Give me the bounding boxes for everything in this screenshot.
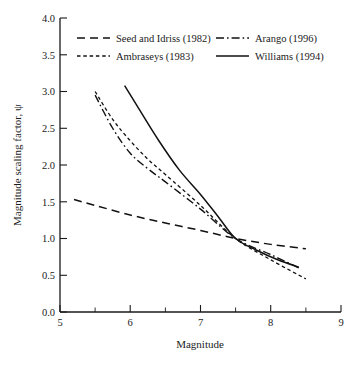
x-tick-label: 9 [338, 317, 343, 328]
legend-label: Seed and Idriss (1982) [116, 33, 211, 45]
x-tick-label: 5 [57, 317, 62, 328]
legend-label: Williams (1994) [255, 51, 324, 63]
y-axis-title: Magnitude scaling factor, ψ [11, 104, 23, 226]
y-axis-tick-labels: 0.0 0.5 1.0 1.5 2.0 2.5 3.0 3.5 4.0 [42, 13, 55, 318]
y-tick-label: 1.0 [42, 233, 55, 244]
y-tick-label: 2.5 [42, 123, 55, 134]
y-tick-label: 1.5 [42, 197, 55, 208]
y-tick-label: 4.0 [42, 13, 55, 24]
legend-label: Ambraseys (1983) [116, 51, 194, 63]
y-tick-label: 2.0 [42, 160, 55, 171]
y-tick-label: 3.5 [42, 50, 55, 61]
x-tick-label: 7 [198, 317, 203, 328]
y-tick-label: 3.0 [42, 86, 55, 97]
x-tick-label: 8 [268, 317, 273, 328]
x-axis-title: Magnitude [176, 338, 224, 350]
y-tick-label: 0.0 [42, 307, 55, 318]
magnitude-scaling-factor-chart: 0.0 0.5 1.0 1.5 2.0 2.5 3.0 3.5 4.0 5 6 … [0, 0, 358, 367]
legend-label: Arango (1996) [255, 33, 318, 45]
x-tick-label: 6 [128, 317, 133, 328]
y-tick-label: 0.5 [42, 270, 55, 281]
chart-figure: 0.0 0.5 1.0 1.5 2.0 2.5 3.0 3.5 4.0 5 6 … [0, 0, 358, 367]
